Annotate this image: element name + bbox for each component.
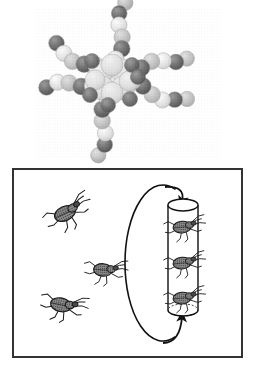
cycle-panel xyxy=(0,165,255,369)
insect-head xyxy=(191,221,196,226)
insect-head xyxy=(191,292,196,297)
insect-head xyxy=(113,266,119,271)
cylinder-top-opening xyxy=(168,199,198,211)
panel-border-frame xyxy=(13,169,242,357)
cycle-svg xyxy=(0,165,255,369)
insect-head xyxy=(191,257,196,262)
molecule-panel xyxy=(0,0,255,165)
insect-head xyxy=(72,301,79,307)
halftone-texture-overlay xyxy=(35,8,220,158)
molecule-svg xyxy=(0,0,255,165)
figure-root xyxy=(0,0,255,369)
